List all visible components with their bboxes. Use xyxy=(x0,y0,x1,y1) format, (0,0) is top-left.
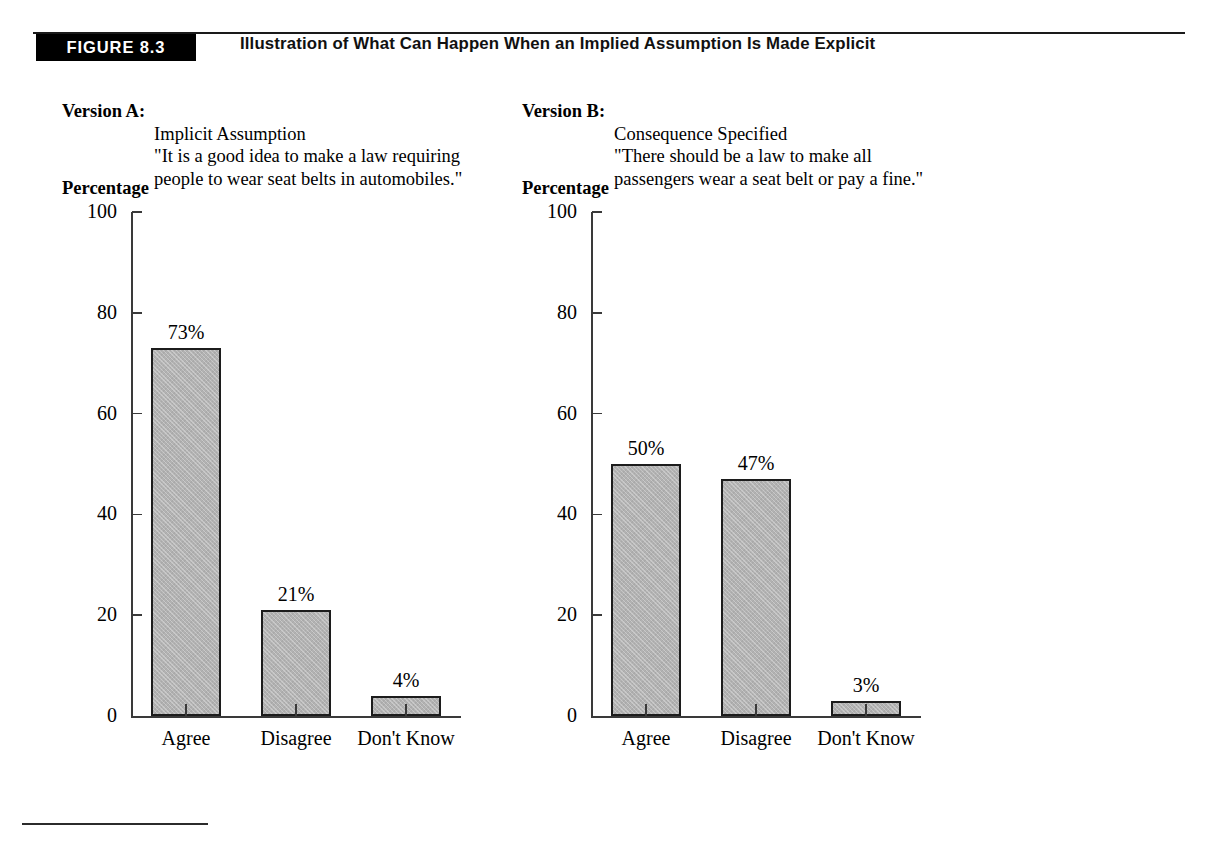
version-b-heading: Consequence Specified xyxy=(614,124,787,144)
figure-title: Illustration of What Can Happen When an … xyxy=(240,33,1040,54)
x-axis-tick xyxy=(645,704,647,716)
version-a-label: Version A: xyxy=(62,100,154,123)
x-axis-line xyxy=(591,716,921,718)
bar xyxy=(261,610,331,716)
x-axis-tick xyxy=(865,704,867,716)
y-axis-tick-label: 20 xyxy=(517,604,577,624)
y-axis-tick-label: 100 xyxy=(57,201,117,221)
y-axis-tick-label: 0 xyxy=(517,705,577,725)
y-axis-tick xyxy=(592,514,602,516)
y-axis-tick-label: 40 xyxy=(57,503,117,523)
y-axis-tick-label: 80 xyxy=(57,302,117,322)
bar-value-label: 21% xyxy=(246,584,346,604)
bar-value-label: 50% xyxy=(596,438,696,458)
x-axis-tick xyxy=(185,704,187,716)
bar-value-label: 73% xyxy=(136,322,236,342)
y-axis-tick-label: 100 xyxy=(517,201,577,221)
bar-value-label: 4% xyxy=(356,670,456,690)
y-axis-title-right: Percentage xyxy=(522,178,609,199)
x-axis-category-label: Don't Know xyxy=(791,727,941,749)
y-axis-tick-label: 80 xyxy=(517,302,577,322)
y-axis-tick xyxy=(592,614,602,616)
y-axis-tick xyxy=(132,514,142,516)
y-axis-tick-label: 0 xyxy=(57,705,117,725)
y-axis-title-left: Percentage xyxy=(62,178,149,199)
x-axis-tick xyxy=(755,704,757,716)
plot-area-left: 02040608010073%Agree21%Disagree4%Don't K… xyxy=(62,206,462,736)
version-b-label: Version B: xyxy=(522,100,614,123)
y-axis-tick xyxy=(132,413,142,415)
y-axis-tick-label: 60 xyxy=(57,403,117,423)
bar xyxy=(721,479,791,716)
y-axis-line xyxy=(591,212,593,718)
version-b-caption: Version B: Consequence Specified Version… xyxy=(522,100,923,190)
bar xyxy=(151,348,221,716)
figure-number-badge: FIGURE 8.3 xyxy=(36,34,196,61)
bar-value-label: 47% xyxy=(706,453,806,473)
y-axis-tick xyxy=(592,312,602,314)
y-axis-tick xyxy=(132,312,142,314)
version-a-quote: "It is a good idea to make a law requiri… xyxy=(154,145,462,190)
y-axis-tick-label: 20 xyxy=(57,604,117,624)
y-axis-tick xyxy=(592,413,602,415)
x-axis-tick xyxy=(405,704,407,716)
x-axis-line xyxy=(131,716,461,718)
bar xyxy=(611,464,681,716)
footnote-rule xyxy=(22,823,208,825)
y-axis-tick xyxy=(132,614,142,616)
y-axis-tick-label: 40 xyxy=(517,503,577,523)
y-axis-tick xyxy=(592,211,602,213)
version-a-caption: Version A: Implicit Assumption Version A… xyxy=(62,100,462,190)
plot-area-right: 02040608010050%Agree47%Disagree3%Don't K… xyxy=(522,206,922,736)
y-axis-tick-label: 60 xyxy=(517,403,577,423)
version-a-heading: Implicit Assumption xyxy=(154,124,306,144)
x-axis-category-label: Don't Know xyxy=(331,727,481,749)
y-axis-line xyxy=(131,212,133,718)
y-axis-tick xyxy=(132,211,142,213)
x-axis-tick xyxy=(295,704,297,716)
version-b-quote: "There should be a law to make all passe… xyxy=(614,145,923,190)
bar-value-label: 3% xyxy=(816,675,916,695)
